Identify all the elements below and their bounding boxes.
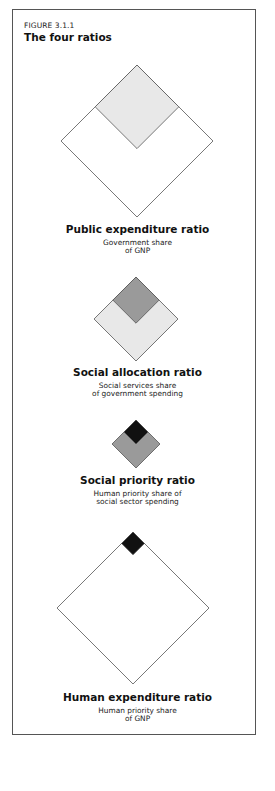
ratio-name: Social allocation ratio (0, 366, 275, 378)
ratio-description: Human priority share of social sector sp… (0, 490, 275, 507)
ratio-description: Human priority share of GNP (0, 707, 275, 724)
ratio-name: Social priority ratio (0, 474, 275, 486)
caption-social-allocation: Social allocation ratio Social services … (0, 366, 275, 399)
diamond-human-expenditure (57, 532, 209, 684)
ratio-name: Human expenditure ratio (0, 691, 275, 703)
diamond-social-allocation (94, 277, 178, 361)
caption-social-priority: Social priority ratio Human priority sha… (0, 474, 275, 507)
caption-human-expenditure: Human expenditure ratio Human priority s… (0, 691, 275, 724)
caption-public-expenditure: Public expenditure ratio Government shar… (0, 223, 275, 256)
ratio-description: Government share of GNP (0, 239, 275, 256)
diamond-social-priority (112, 420, 160, 468)
ratio-description: Social services share of government spen… (0, 382, 275, 399)
diamond-public-expenditure (61, 65, 213, 217)
ratio-name: Public expenditure ratio (0, 223, 275, 235)
